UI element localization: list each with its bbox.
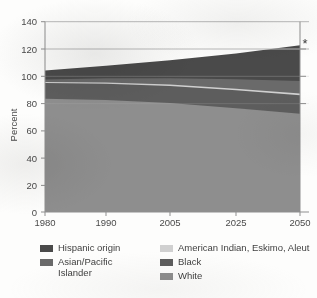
legend-column-left: Hispanic origin Asian/Pacific Islander — [40, 242, 160, 281]
x-tick-label-2050: 2050 — [289, 217, 310, 228]
x-tick-label-1980: 1980 — [34, 217, 55, 228]
legend-column-right: American Indian, Eskimo, Aleut Black Whi… — [160, 242, 315, 284]
legend-label-hispanic-origin: Hispanic origin — [58, 242, 120, 253]
legend-swatch-american-indian-eskimo-aleut — [160, 245, 173, 252]
x-tick-label-2005: 2005 — [159, 217, 180, 228]
legend-label-american-indian-eskimo-aleut: American Indian, Eskimo, Aleut — [178, 242, 309, 253]
area-band-white — [45, 99, 300, 212]
x-tick-label-2025: 2025 — [225, 217, 246, 228]
y-axis — [41, 22, 45, 212]
legend-label-black: Black — [178, 256, 201, 267]
y-tick-label-80: 80 — [26, 98, 37, 109]
y-tick-label-100: 100 — [21, 71, 37, 82]
legend-label-white: White — [178, 270, 202, 281]
legend-swatch-black — [160, 259, 173, 266]
legend-item-hispanic-origin: Hispanic origin — [40, 242, 160, 253]
y-tick-label-0: 0 — [32, 207, 37, 218]
legend-swatch-white — [160, 273, 173, 280]
legend-label-asian-pacific-islander: Asian/Pacific Islander — [58, 256, 112, 278]
y-tick-label-40: 40 — [26, 153, 37, 164]
legend-item-white: White — [160, 270, 315, 281]
chart-legend: Hispanic origin Asian/Pacific Islander A… — [0, 240, 317, 298]
x-axis — [45, 212, 309, 216]
y-axis-title: Percent — [8, 108, 19, 141]
legend-swatch-asian-pacific-islander — [40, 259, 53, 266]
y-tick-label-140: 140 — [21, 16, 37, 27]
y-tick-label-60: 60 — [26, 125, 37, 136]
x-tick-label-1990: 1990 — [95, 217, 116, 228]
legend-swatch-hispanic-origin — [40, 245, 53, 252]
y-tick-label-120: 120 — [21, 44, 37, 55]
legend-item-asian-pacific-islander: Asian/Pacific Islander — [40, 256, 160, 278]
legend-item-black: Black — [160, 256, 315, 267]
legend-item-american-indian-eskimo-aleut: American Indian, Eskimo, Aleut — [160, 242, 315, 253]
y-tick-label-20: 20 — [26, 180, 37, 191]
stacked-area-chart: 140 120 100 80 60 40 20 0 1980 1990 2005… — [0, 0, 317, 240]
footnote-asterisk: * — [302, 36, 307, 51]
